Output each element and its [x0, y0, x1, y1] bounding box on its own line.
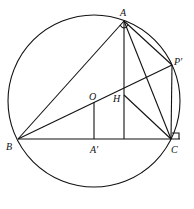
label-C: C [171, 144, 178, 155]
label-A: A [119, 7, 127, 18]
segment-P-prime-C [171, 65, 172, 139]
geometry-diagram: A B C O H A′ P′ [0, 0, 194, 209]
label-O: O [89, 91, 96, 102]
segment-AC [124, 21, 171, 139]
label-A-prime: A′ [89, 144, 99, 155]
label-H: H [112, 93, 121, 104]
label-B: B [6, 141, 12, 152]
segment-AB [18, 21, 124, 139]
label-P-prime: P′ [173, 56, 183, 67]
segment-AP-prime [124, 21, 172, 65]
segment-HC [124, 95, 171, 139]
segment-BP-prime [18, 65, 172, 139]
